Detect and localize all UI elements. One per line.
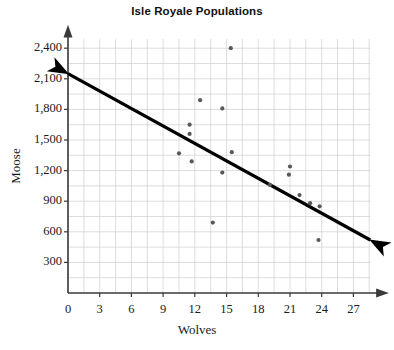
x-tick-label: 3 bbox=[88, 302, 112, 317]
x-tick-label: 18 bbox=[246, 302, 270, 317]
chart-container: Isle Royale Populations Moose Wolves 300… bbox=[0, 0, 394, 350]
y-tick-label: 2,400 bbox=[16, 40, 62, 55]
data-point bbox=[316, 238, 320, 242]
data-point bbox=[220, 171, 224, 175]
data-point bbox=[318, 204, 322, 208]
data-point bbox=[297, 193, 301, 197]
y-tick-label: 600 bbox=[16, 224, 62, 239]
x-tick-label: 6 bbox=[119, 302, 143, 317]
data-point bbox=[308, 201, 312, 205]
data-point bbox=[268, 183, 272, 187]
y-tick-label: 300 bbox=[16, 254, 62, 269]
data-point bbox=[229, 46, 233, 50]
y-tick-label: 900 bbox=[16, 193, 62, 208]
x-tick-label: 21 bbox=[278, 302, 302, 317]
trend-line-group bbox=[68, 74, 370, 240]
x-tick-label: 12 bbox=[183, 302, 207, 317]
data-point bbox=[188, 132, 192, 136]
data-point bbox=[190, 159, 194, 163]
x-axis-title: Wolves bbox=[0, 322, 394, 338]
data-point bbox=[220, 106, 224, 110]
data-point bbox=[177, 151, 181, 155]
y-tick-label: 2,100 bbox=[16, 71, 62, 86]
x-tick-label: 15 bbox=[215, 302, 239, 317]
y-tick-label: 1,500 bbox=[16, 132, 62, 147]
data-point bbox=[288, 164, 292, 168]
x-tick-label: 9 bbox=[151, 302, 175, 317]
data-point bbox=[287, 173, 291, 177]
x-tick-label: 24 bbox=[310, 302, 334, 317]
data-point bbox=[211, 221, 215, 225]
y-tick-label: 1,800 bbox=[16, 101, 62, 116]
axes bbox=[64, 36, 378, 297]
trend-line bbox=[68, 74, 370, 240]
x-tick-label: 0 bbox=[56, 302, 80, 317]
data-point bbox=[230, 150, 234, 154]
data-point bbox=[188, 123, 192, 127]
y-tick-label: 1,200 bbox=[16, 163, 62, 178]
data-point bbox=[198, 98, 202, 102]
x-tick-label: 27 bbox=[341, 302, 365, 317]
grid-lines bbox=[68, 39, 370, 293]
